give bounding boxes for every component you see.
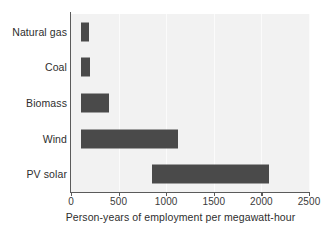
bar-biomass	[81, 94, 109, 113]
category-label-natural-gas: Natural gas	[12, 26, 67, 38]
x-axis-title: Person-years of employment per megawatt-…	[0, 211, 333, 223]
x-tick-label: 1500	[202, 196, 225, 207]
category-label-coal: Coal	[45, 61, 67, 73]
gridline	[119, 14, 120, 192]
gridline	[309, 14, 310, 192]
x-tick-label: 2500	[298, 196, 321, 207]
bar-wind	[81, 129, 177, 148]
x-tick-label: 500	[110, 196, 127, 207]
category-label-pv-solar: PV solar	[27, 168, 67, 180]
x-axis-line	[70, 192, 310, 193]
x-tick-label: 1000	[155, 196, 178, 207]
bar-coal	[81, 58, 90, 77]
bar-pv-solar	[152, 165, 269, 184]
bar-chart: Natural gasCoalBiomassWindPV solar 05001…	[0, 0, 333, 235]
x-tick-label: 2000	[250, 196, 273, 207]
x-tick-label: 0	[68, 196, 74, 207]
bar-natural-gas	[81, 22, 89, 41]
y-axis-line	[70, 12, 71, 193]
category-label-biomass: Biomass	[26, 97, 67, 109]
category-label-wind: Wind	[43, 133, 67, 145]
